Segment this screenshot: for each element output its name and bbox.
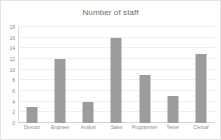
y-axis-tick-label: 2: [12, 110, 15, 115]
y-axis-tick-label: 6: [12, 89, 15, 94]
bar: [167, 96, 178, 123]
y-axis-tick-label: 18: [9, 25, 15, 30]
x-axis-category-label: Clerical: [193, 126, 208, 131]
chart-container: Number of staff 024681012141618 Director…: [0, 0, 221, 140]
x-axis-category-label: Director: [24, 126, 40, 131]
x-axis-category-label: Sales: [111, 126, 123, 131]
bar: [83, 102, 94, 123]
x-axis-category-label: Tester: [167, 126, 180, 131]
bar: [111, 38, 122, 123]
plot-area: 024681012141618 DirectorEngineerAnalystS…: [18, 27, 215, 123]
y-axis-tick-label: 0: [12, 121, 15, 126]
bar: [55, 59, 66, 123]
bar-group: Director: [18, 27, 46, 123]
bar-group: Engineer: [46, 27, 74, 123]
bar-group: Programmer: [131, 27, 159, 123]
x-axis-category-label: Programmer: [132, 126, 158, 131]
y-axis-tick-label: 4: [12, 99, 15, 104]
bar: [27, 107, 38, 123]
y-axis-tick-label: 16: [9, 35, 15, 40]
y-axis-tick-label: 8: [12, 78, 15, 83]
bar: [139, 75, 150, 123]
y-axis-tick-label: 14: [9, 46, 15, 51]
bar-group: Tester: [159, 27, 187, 123]
y-axis-tick-label: 12: [9, 57, 15, 62]
bar-group: Analyst: [74, 27, 102, 123]
x-axis-category-label: Analyst: [81, 126, 96, 131]
bar-series: DirectorEngineerAnalystSalesProgrammerTe…: [18, 27, 215, 123]
bar: [195, 54, 206, 123]
bar-group: Clerical: [187, 27, 215, 123]
chart-title: Number of staff: [1, 8, 220, 17]
bar-group: Sales: [102, 27, 130, 123]
x-axis-category-label: Engineer: [51, 126, 69, 131]
y-axis-tick-label: 10: [9, 67, 15, 72]
